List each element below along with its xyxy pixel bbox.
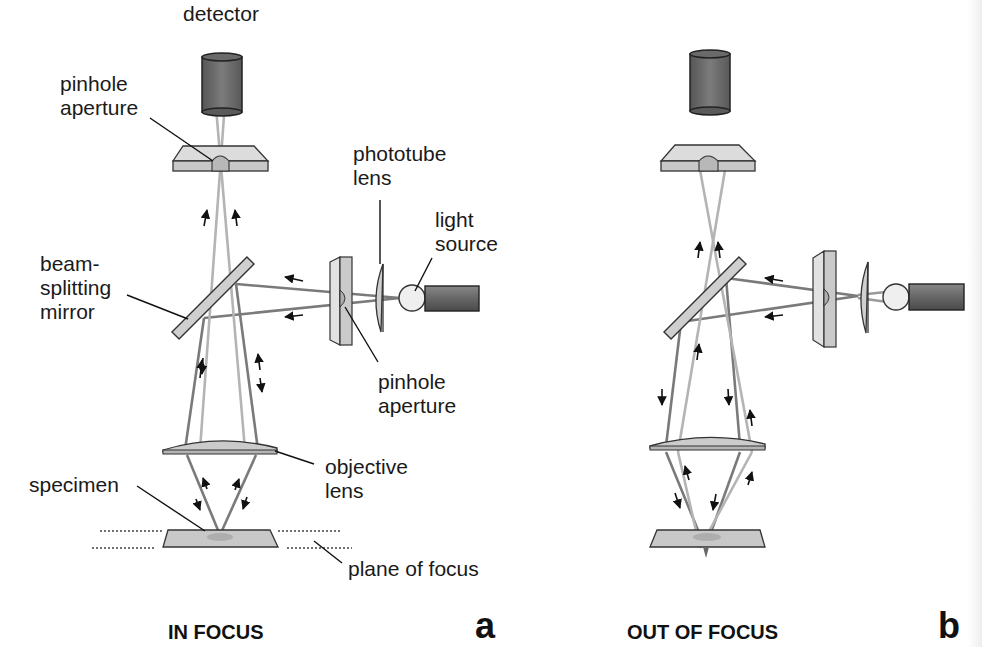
label-beam-splitting-mirror-line3: mirror [40, 300, 95, 324]
caption-in-focus: IN FOCUS [168, 621, 264, 644]
label-light-source-line2: source [435, 232, 498, 256]
detector-icon [202, 53, 242, 116]
panel-letter-b: b [938, 605, 960, 647]
label-beam-splitting-mirror-line2: splitting [40, 276, 111, 300]
label-beam-splitting-mirror-line1: beam- [40, 252, 100, 276]
diagram-svg [0, 0, 982, 647]
label-pinhole-aperture-top-line1: pinhole [60, 72, 128, 96]
caption-out-of-focus: OUT OF FOCUS [627, 621, 778, 644]
label-plane-of-focus: plane of focus [348, 557, 479, 581]
pinhole-aperture-top-icon [173, 146, 268, 171]
pinhole-aperture-top-b-icon [661, 145, 755, 171]
label-objective-lens-line1: objective [325, 455, 408, 479]
phototube-lens-b-icon [861, 262, 868, 333]
light-source-icon [399, 285, 479, 311]
label-specimen: specimen [29, 473, 119, 497]
beam-splitting-mirror-b-icon [664, 257, 746, 339]
specimen-slide-icon [163, 530, 278, 547]
pinhole-aperture-source-icon [330, 257, 352, 345]
objective-lens-icon [163, 441, 277, 454]
beam-paths-b [666, 170, 895, 548]
pinhole-aperture-source-b-icon [813, 251, 836, 347]
label-detector: detector [183, 2, 259, 26]
confocal-microscope-diagram: detector pinhole aperture phototube lens… [0, 0, 982, 647]
detector-b-icon [690, 50, 730, 115]
label-light-source-line1: light [435, 208, 474, 232]
panel-letter-a: a [475, 605, 495, 647]
light-source-b-icon [883, 284, 964, 310]
label-pinhole-aperture-top-line2: aperture [60, 96, 138, 120]
page-edge-shadow [968, 0, 982, 647]
panel-a [92, 53, 479, 563]
specimen-slide-b-icon [650, 530, 765, 558]
label-pinhole-aperture-mid-line1: pinhole [378, 370, 446, 394]
direction-arrows-a [196, 210, 303, 510]
label-pinhole-aperture-mid-line2: aperture [378, 394, 456, 418]
label-phototube-lens-line1: phototube [353, 142, 446, 166]
label-phototube-lens-line2: lens [353, 166, 392, 190]
label-objective-lens-line2: lens [325, 479, 364, 503]
phototube-lens-icon [376, 264, 383, 332]
panel-b [650, 50, 964, 558]
